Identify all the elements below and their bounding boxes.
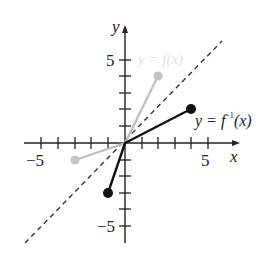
f-inverse-label: y = f−1(x) — [193, 111, 252, 130]
f-inverse-label-pre: y = — [193, 112, 221, 130]
series-f — [71, 72, 163, 165]
y-tick-pos5: 5 — [106, 51, 115, 70]
y-tick-neg5: −5 — [97, 217, 115, 236]
series-f-inverse — [103, 104, 196, 198]
x-tick-neg5: −5 — [26, 151, 44, 170]
x-tick-pos5: 5 — [201, 151, 210, 170]
function-inverse-graph: y x −5 5 5 −5 y = f(x) y = f−1(x) — [0, 0, 274, 256]
y-axis-label: y — [110, 17, 120, 36]
f-label: y = f(x) — [136, 51, 183, 68]
identity-line — [25, 41, 222, 243]
f-inverse-label-sup: −1 — [225, 111, 234, 120]
x-axis-label: x — [229, 147, 238, 166]
f-inverse-label-post: (x) — [234, 112, 252, 130]
